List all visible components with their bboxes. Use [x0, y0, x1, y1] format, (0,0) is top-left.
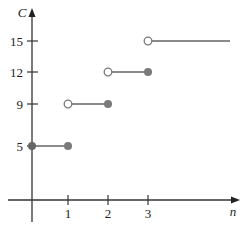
- step-chart: 1 2 3 5 9 12 15 C n: [0, 0, 241, 231]
- step-series: [28, 37, 230, 150]
- open-point: [144, 37, 152, 45]
- y-tick-label-12: 12: [10, 65, 23, 80]
- closed-point: [144, 68, 152, 76]
- closed-point: [104, 100, 112, 108]
- x-axis-label: n: [230, 204, 237, 219]
- x-axis-arrow-icon: [231, 197, 240, 204]
- closed-point: [28, 142, 36, 150]
- open-point: [64, 100, 72, 108]
- open-point: [104, 68, 112, 76]
- x-tick-label-1: 1: [65, 206, 72, 221]
- y-axis-label: C: [18, 5, 27, 20]
- y-tick-label-5: 5: [17, 139, 24, 154]
- x-tick-label-3: 3: [145, 206, 152, 221]
- y-axis-arrow-icon: [29, 8, 36, 17]
- y-tick-label-15: 15: [10, 34, 23, 49]
- closed-point: [64, 142, 72, 150]
- y-tick-label-9: 9: [17, 97, 24, 112]
- chart-container: 1 2 3 5 9 12 15 C n: [0, 0, 241, 231]
- x-tick-label-2: 2: [105, 206, 112, 221]
